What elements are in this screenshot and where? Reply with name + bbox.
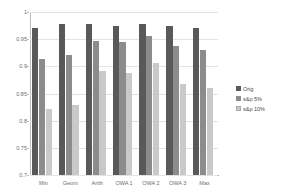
bar [93, 41, 99, 175]
plot-area [30, 12, 218, 175]
bar-group [32, 12, 52, 175]
x-tick-label: Geom [57, 180, 84, 187]
gridline [30, 175, 218, 176]
bar [207, 88, 213, 175]
bar [126, 73, 132, 175]
bar [119, 42, 125, 175]
x-tick-label: OWA 1 [111, 180, 138, 187]
bar [99, 71, 105, 175]
y-tick-label: 0.8 [0, 118, 27, 124]
bar-group [166, 12, 186, 175]
bar [173, 46, 179, 175]
bar [72, 105, 78, 175]
y-tick-label: 0.7 [0, 172, 27, 178]
x-tick-label: OWA 3 [164, 180, 191, 187]
legend-item[interactable]: s&p 5% [236, 94, 284, 103]
bar-group [59, 12, 79, 175]
bar-group [139, 12, 159, 175]
bar [32, 28, 38, 175]
y-tick-label: 0.75 [0, 145, 27, 151]
legend-item[interactable]: s&p 10% [236, 104, 284, 113]
y-tick-label: 0.9 [0, 63, 27, 69]
y-tick-label: 0.95 [0, 36, 27, 42]
x-tick-label: Arith [84, 180, 111, 187]
y-tick-mark [27, 175, 29, 176]
bar [200, 50, 206, 175]
x-tick-label: Max [191, 180, 218, 187]
bar [193, 28, 199, 175]
legend-label: s&p 5% [243, 96, 262, 102]
chart-legend: Origs&p 5%s&p 10% [236, 84, 284, 114]
bar [139, 24, 145, 175]
bar-group [86, 12, 106, 175]
y-tick-mark [27, 12, 29, 13]
y-tick-mark [27, 94, 29, 95]
y-tick-label: 1 [0, 9, 27, 15]
bar [166, 26, 172, 175]
bar [113, 26, 119, 175]
bar [86, 24, 92, 175]
x-tick-label: Min [30, 180, 57, 187]
legend-item[interactable]: Orig [236, 84, 284, 93]
bar-group [193, 12, 213, 175]
bar [146, 36, 152, 175]
y-tick-mark [27, 148, 29, 149]
legend-swatch-icon [236, 106, 241, 111]
bar [39, 59, 45, 175]
legend-swatch-icon [236, 96, 241, 101]
bar [59, 24, 65, 175]
bar-chart: 0.70.750.80.850.90.951 MinGeomArithOWA 1… [0, 0, 286, 195]
y-tick-mark [27, 121, 29, 122]
y-tick-mark [27, 66, 29, 67]
x-tick-label: OWA 2 [137, 180, 164, 187]
bar-group [113, 12, 133, 175]
legend-label: s&p 10% [243, 106, 265, 112]
legend-label: Orig [243, 86, 253, 92]
bar [66, 55, 72, 175]
bar [153, 63, 159, 175]
y-tick-label: 0.85 [0, 91, 27, 97]
bar [180, 84, 186, 175]
legend-swatch-icon [236, 86, 241, 91]
y-tick-mark [27, 39, 29, 40]
bar [46, 109, 52, 175]
